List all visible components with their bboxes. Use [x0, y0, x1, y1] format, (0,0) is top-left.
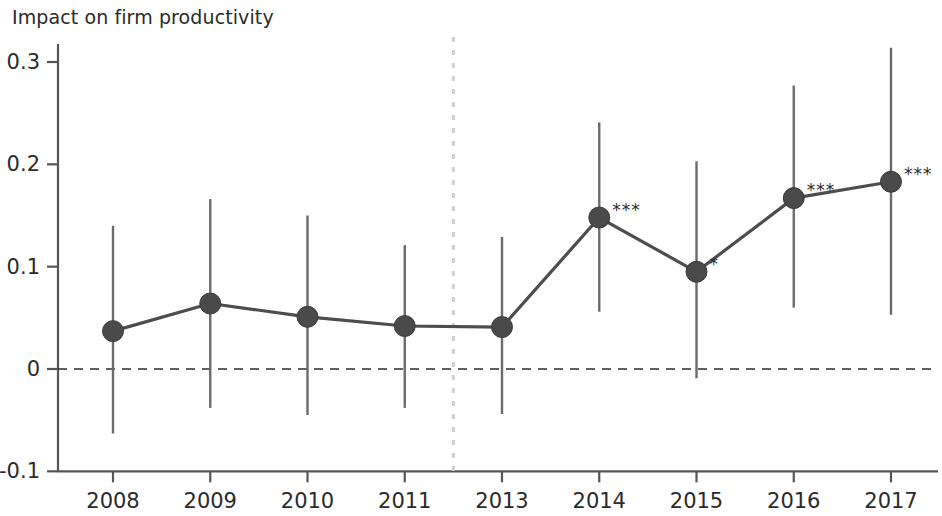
- data-point-marker: [881, 171, 902, 192]
- y-axis-tick-label: -0.1: [0, 459, 40, 483]
- x-axis-tick-label: 2015: [670, 489, 723, 513]
- significance-label: ***: [612, 200, 641, 220]
- x-axis-tick-label: 2009: [184, 489, 237, 513]
- x-axis-tick-label: 2016: [767, 489, 820, 513]
- data-point-marker: [589, 207, 610, 228]
- chart-plot-area: 0.30.20.10-0.1 2008200920102011201320142…: [0, 0, 942, 516]
- x-axis-tick-label: 2013: [475, 489, 528, 513]
- significance-label: ***: [807, 180, 836, 200]
- data-point-marker: [686, 261, 707, 282]
- significance-label: *: [710, 254, 720, 274]
- y-axis-tick-label: 0.2: [7, 152, 40, 176]
- y-axis-tick-labels: 0.30.20.10-0.1: [0, 50, 40, 483]
- x-axis-tick-label: 2008: [86, 489, 139, 513]
- x-axis-tick-labels: 200820092010201120132014201520162017: [86, 489, 917, 513]
- data-point-marker: [783, 188, 804, 209]
- y-axis-tick-label: 0.3: [7, 50, 40, 74]
- error-bars: [113, 48, 891, 434]
- data-point-marker: [297, 306, 318, 327]
- x-axis-tick-label: 2010: [281, 489, 334, 513]
- significance-label: ***: [904, 164, 933, 184]
- chart-figure: Impact on firm productivity 0.30.20.10-0…: [0, 0, 942, 516]
- data-point-marker: [492, 317, 513, 338]
- x-axis-tick-marks: [113, 471, 891, 482]
- x-axis-tick-label: 2011: [378, 489, 431, 513]
- y-axis-tick-label: 0: [27, 357, 40, 381]
- y-axis-tick-marks: [47, 62, 58, 471]
- x-axis-tick-label: 2017: [864, 489, 917, 513]
- data-point-marker: [394, 316, 415, 337]
- data-point-marker: [103, 321, 124, 342]
- x-axis-tick-label: 2014: [573, 489, 626, 513]
- data-point-marker: [200, 293, 221, 314]
- y-axis-tick-label: 0.1: [7, 255, 40, 279]
